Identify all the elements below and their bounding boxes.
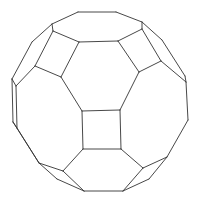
polyhedron-edge [39, 163, 63, 171]
polyhedron-edge [61, 42, 79, 77]
polyhedron-edge [16, 66, 35, 86]
polyhedron-edge [118, 41, 139, 72]
polyhedron-edge [120, 72, 139, 110]
polyhedron-edge [82, 111, 83, 149]
polyhedron-edge [162, 40, 185, 76]
polyhedron-edge [149, 157, 167, 179]
truncated-octahedron-figure [0, 0, 199, 203]
polyhedron-edge [143, 157, 167, 168]
polyhedron-edge [121, 149, 143, 168]
polyhedron-edge [16, 86, 17, 128]
polyhedron-edge [35, 31, 53, 66]
polyhedron-edge [142, 22, 162, 40]
polyhedron-edge [12, 79, 16, 86]
polyhedron-edge [63, 171, 84, 191]
polyhedron-edge [118, 29, 142, 41]
polyhedron-edge [39, 163, 57, 179]
polyhedron-edge [53, 31, 79, 42]
polyhedron-edge [116, 12, 142, 22]
polyhedron-edge [63, 149, 83, 171]
polyhedron-edge [12, 42, 32, 79]
polyhedron-edge [139, 61, 161, 72]
polyhedron-edge [120, 110, 121, 149]
polyhedron-edges [12, 12, 188, 191]
polyhedron-edge [82, 110, 120, 111]
polyhedron-edge [17, 128, 39, 163]
polyhedron-edge [167, 120, 188, 157]
polyhedron-edge [79, 41, 118, 42]
polyhedron-edge [123, 179, 149, 191]
polyhedron-edge [52, 24, 53, 31]
polyhedron-edge [142, 29, 161, 61]
polyhedron-edge [35, 66, 61, 77]
polyhedron-edge [186, 82, 188, 120]
polyhedron-edge [57, 179, 84, 191]
polyhedron-edge [12, 79, 13, 122]
polyhedron-edge [123, 168, 143, 191]
polyhedron-edge [52, 12, 78, 24]
polyhedron-edge [61, 77, 82, 111]
